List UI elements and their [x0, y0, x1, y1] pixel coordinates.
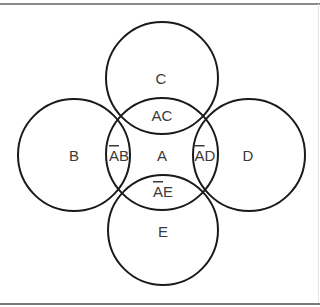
label-d-part: D	[205, 147, 216, 164]
overline-a: A	[109, 147, 119, 164]
diagram-frame: C AC B A D E AB AD AE	[0, 0, 320, 307]
label-ac: AC	[152, 107, 173, 124]
venn-diagram: C AC B A D E AB AD AE	[0, 0, 320, 307]
overline-a: A	[153, 183, 163, 200]
label-d: D	[243, 147, 254, 164]
label-abar-e: AE	[153, 183, 173, 200]
label-b-part: B	[119, 147, 129, 164]
overline-a: A	[195, 147, 205, 164]
label-e-part: E	[163, 183, 173, 200]
label-e: E	[158, 223, 168, 240]
label-abar-b: AB	[109, 147, 129, 164]
label-abar-d: AD	[195, 147, 216, 164]
label-c: C	[156, 70, 167, 87]
label-b: B	[69, 147, 79, 164]
label-a: A	[157, 147, 167, 164]
